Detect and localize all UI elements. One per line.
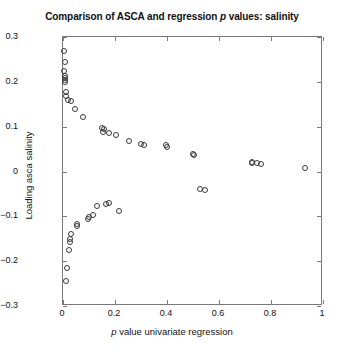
- x-tick-mark: [271, 300, 272, 304]
- y-tick-mark-right: [317, 261, 321, 262]
- x-tick-label: 1: [319, 308, 324, 318]
- data-point: [113, 132, 119, 138]
- x-tick-mark-top: [271, 37, 272, 41]
- chart-title: Comparison of ASCA and regression p valu…: [0, 11, 344, 22]
- data-point: [61, 48, 67, 54]
- y-tick-mark-right: [317, 127, 321, 128]
- data-point: [191, 152, 197, 158]
- x-axis-title: p value univariate regression: [0, 326, 344, 337]
- x-tick-mark: [167, 300, 168, 304]
- y-tick-mark-right: [317, 37, 321, 38]
- x-tick-label: 0.6: [212, 308, 225, 318]
- data-point: [103, 201, 109, 207]
- y-tick-mark: [63, 82, 67, 83]
- chart-title-post: values: salinity: [226, 11, 299, 22]
- data-point: [72, 106, 78, 112]
- y-tick-mark: [63, 172, 67, 173]
- x-tick-mark-top: [323, 37, 324, 41]
- data-points-layer: [63, 37, 321, 304]
- scatter-plot-figure: Comparison of ASCA and regression p valu…: [0, 0, 344, 356]
- y-tick-label: −0.2: [0, 255, 18, 265]
- x-tick-mark-top: [115, 37, 116, 41]
- data-point: [64, 265, 70, 271]
- y-tick-mark: [63, 261, 67, 262]
- x-tick-label: 0.4: [160, 308, 173, 318]
- y-axis-title: Loading asca salinity: [23, 91, 34, 261]
- y-tick-mark: [63, 216, 67, 217]
- x-tick-label: 0.8: [264, 308, 277, 318]
- data-point: [68, 98, 74, 104]
- x-axis-title-rest: value univariate regression: [117, 326, 233, 337]
- y-tick-label: −0.3: [0, 300, 18, 310]
- x-tick-mark: [63, 300, 64, 304]
- y-tick-mark: [63, 306, 67, 307]
- data-point: [106, 130, 112, 136]
- data-point: [62, 59, 68, 65]
- data-point: [63, 278, 69, 284]
- data-point: [94, 203, 100, 209]
- y-tick-label: 0.1: [0, 121, 18, 131]
- data-point: [80, 114, 86, 120]
- y-tick-mark: [63, 37, 67, 38]
- data-point: [126, 138, 132, 144]
- data-point: [116, 208, 122, 214]
- x-tick-label: 0.2: [108, 308, 121, 318]
- chart-title-pre: Comparison of ASCA and regression: [45, 11, 220, 22]
- data-point: [258, 161, 264, 167]
- x-tick-mark-top: [219, 37, 220, 41]
- data-point: [67, 239, 73, 245]
- x-tick-mark: [115, 300, 116, 304]
- y-tick-mark-right: [317, 82, 321, 83]
- y-tick-mark-right: [317, 216, 321, 217]
- y-tick-label: 0.2: [0, 76, 18, 86]
- plot-area: [62, 36, 322, 305]
- data-point: [74, 223, 80, 229]
- y-tick-mark-right: [317, 172, 321, 173]
- y-tick-label: −0.1: [0, 210, 18, 220]
- y-tick-mark-right: [317, 306, 321, 307]
- data-point: [66, 247, 72, 253]
- x-tick-label: 0: [59, 308, 64, 318]
- y-tick-label: 0.3: [0, 31, 18, 41]
- y-tick-mark: [63, 127, 67, 128]
- x-tick-mark: [323, 300, 324, 304]
- data-point: [164, 144, 170, 150]
- data-point: [85, 216, 91, 222]
- y-tick-label: 0: [0, 166, 18, 176]
- x-tick-mark-top: [167, 37, 168, 41]
- data-point: [202, 187, 208, 193]
- x-tick-mark: [219, 300, 220, 304]
- data-point: [302, 165, 308, 171]
- data-point: [141, 142, 147, 148]
